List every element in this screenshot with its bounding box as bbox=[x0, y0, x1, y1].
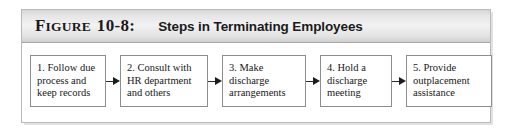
process-step-4: 4. Hold a discharge meeting bbox=[320, 55, 392, 107]
figure-header-inner: FIGURE 10-8: Steps in Terminating Employ… bbox=[35, 10, 482, 42]
process-step-2-label: 2. Consult with HR department and others bbox=[127, 62, 191, 100]
figure-number: 10-8: bbox=[97, 16, 135, 36]
process-step-1: 1. Follow due process and keep records bbox=[30, 55, 106, 107]
figure-label-initial: F bbox=[35, 16, 46, 35]
arrow-head bbox=[215, 77, 222, 85]
arrow-head bbox=[313, 77, 320, 85]
figure-label: FIGURE bbox=[35, 16, 91, 36]
flow-row: 1. Follow due process and keep records 2… bbox=[30, 55, 484, 107]
process-step-5-label: 5. Provide outplacement assistance bbox=[413, 62, 470, 100]
arrow-right-icon-3 bbox=[306, 77, 320, 86]
process-step-5: 5. Provide outplacement assistance bbox=[406, 55, 492, 107]
arrow-right-icon-4 bbox=[392, 77, 406, 86]
figure-title: Steps in Terminating Employees bbox=[158, 19, 363, 34]
arrow-head bbox=[399, 77, 406, 85]
process-step-3-label: 3. Make discharge arrangements bbox=[229, 62, 286, 100]
figure-panel: FIGURE 10-8: Steps in Terminating Employ… bbox=[21, 9, 491, 123]
figure-label-rest: IGURE bbox=[46, 19, 91, 34]
flow-diagram: 1. Follow due process and keep records 2… bbox=[22, 43, 490, 123]
process-step-3: 3. Make discharge arrangements bbox=[222, 55, 306, 107]
panel-shadow-bottom bbox=[24, 123, 493, 125]
arrow-head bbox=[113, 77, 120, 85]
figure-header-band: FIGURE 10-8: Steps in Terminating Employ… bbox=[22, 10, 490, 43]
arrow-right-icon-1 bbox=[106, 77, 120, 86]
process-step-1-label: 1. Follow due process and keep records bbox=[37, 62, 95, 100]
process-step-4-label: 4. Hold a discharge meeting bbox=[327, 62, 367, 100]
figure-container: FIGURE 10-8: Steps in Terminating Employ… bbox=[0, 0, 517, 140]
process-step-2: 2. Consult with HR department and others bbox=[120, 55, 208, 107]
arrow-right-icon-2 bbox=[208, 77, 222, 86]
